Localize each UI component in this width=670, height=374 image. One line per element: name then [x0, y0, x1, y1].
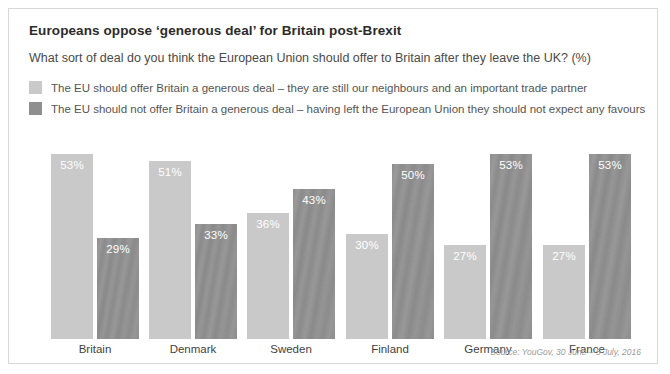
bar-value-britain-light: 53%	[51, 159, 93, 171]
bar-value-sweden-dark: 43%	[293, 194, 335, 206]
bar-france-light: 27%	[543, 245, 585, 339]
bar-sweden-dark: 43%	[293, 189, 335, 339]
legend-item-no-generous-deal: The EU should not offer Britain a genero…	[29, 98, 639, 119]
bar-value-france-dark: 53%	[589, 159, 631, 171]
legend-item-generous-deal: The EU should offer Britain a generous d…	[29, 77, 639, 98]
bar-group-denmark: 51% 33% Denmark	[149, 129, 237, 339]
legend-swatch-icon-dark	[29, 102, 42, 115]
legend-swatch-icon-light	[29, 81, 42, 94]
bar-value-france-light: 27%	[543, 250, 585, 262]
page-title: Europeans oppose ‘generous deal’ for Bri…	[29, 23, 401, 38]
bar-germany-light: 27%	[444, 245, 486, 339]
bar-britain-light: 53%	[51, 154, 93, 339]
bar-group-germany: 27% 53% Germany	[444, 129, 532, 339]
bar-value-germany-dark: 53%	[490, 159, 532, 171]
bar-britain-dark: 29%	[97, 238, 139, 339]
bar-value-germany-light: 27%	[444, 250, 486, 262]
bar-group-finland: 30% 50% Finland	[346, 129, 434, 339]
bar-france-dark: 53%	[589, 154, 631, 339]
bar-value-finland-light: 30%	[346, 239, 388, 251]
bar-value-denmark-light: 51%	[149, 166, 191, 178]
x-axis-label-finland: Finland	[346, 343, 434, 355]
chart-legend: The EU should offer Britain a generous d…	[29, 77, 639, 119]
legend-label-dark: The EU should not offer Britain a genero…	[51, 103, 645, 115]
bar-sweden-light: 36%	[247, 213, 289, 339]
chart-plot-area: 53% 29% Britain 51% 33% Denmark 36% 43%	[47, 129, 643, 339]
x-axis-label-britain: Britain	[51, 343, 139, 355]
bar-value-denmark-dark: 33%	[195, 229, 237, 241]
x-axis-label-denmark: Denmark	[149, 343, 237, 355]
chart-subtitle: What sort of deal do you think the Europ…	[29, 51, 591, 65]
bar-finland-dark: 50%	[392, 164, 434, 339]
bar-group-france: 27% 53% France	[543, 129, 631, 339]
source-note: Source: YouGov, 30 June – 5 July, 2016	[490, 347, 641, 357]
bar-denmark-light: 51%	[149, 161, 191, 339]
bar-germany-dark: 53%	[490, 154, 532, 339]
bar-finland-light: 30%	[346, 234, 388, 339]
bar-group-britain: 53% 29% Britain	[51, 129, 139, 339]
chart-card: Europeans oppose ‘generous deal’ for Bri…	[8, 8, 658, 364]
bar-value-sweden-light: 36%	[247, 218, 289, 230]
bar-denmark-dark: 33%	[195, 224, 237, 339]
legend-label-light: The EU should offer Britain a generous d…	[51, 82, 587, 94]
bar-value-finland-dark: 50%	[392, 169, 434, 181]
x-axis-label-sweden: Sweden	[247, 343, 335, 355]
bar-group-sweden: 36% 43% Sweden	[247, 129, 335, 339]
bar-value-britain-dark: 29%	[97, 243, 139, 255]
